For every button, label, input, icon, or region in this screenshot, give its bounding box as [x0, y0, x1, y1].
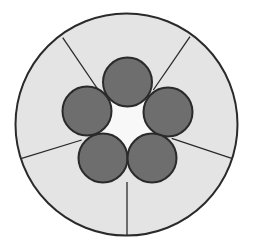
strand-bottom-right — [128, 134, 177, 183]
strand-right — [144, 88, 193, 137]
strand-bottom-left — [79, 134, 128, 183]
strand-left — [63, 87, 112, 136]
cable-cross-section-diagram — [0, 0, 254, 249]
strand-top — [103, 58, 152, 107]
